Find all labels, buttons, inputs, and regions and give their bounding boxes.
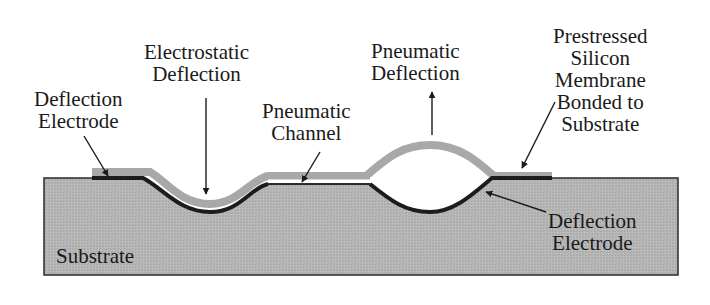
membrane-deflection-diagram: Deflection Electrode Electrostatic Defle… bbox=[0, 0, 710, 305]
label-prestressed-membrane: Prestressed Silicon Membrane Bonded to S… bbox=[553, 25, 647, 135]
label-deflection-electrode-left: Deflection Electrode bbox=[34, 88, 123, 132]
label-deflection-electrode-right: Deflection Electrode bbox=[548, 210, 637, 254]
label-electrostatic-deflection: Electrostatic Deflection bbox=[144, 41, 249, 85]
label-pneumatic-deflection: Pneumatic Deflection bbox=[371, 40, 460, 84]
arrow-membrane bbox=[522, 102, 555, 168]
label-substrate: Substrate bbox=[56, 245, 134, 267]
silicon-membrane-bulge bbox=[366, 145, 552, 176]
label-pneumatic-channel: Pneumatic Channel bbox=[262, 100, 351, 144]
